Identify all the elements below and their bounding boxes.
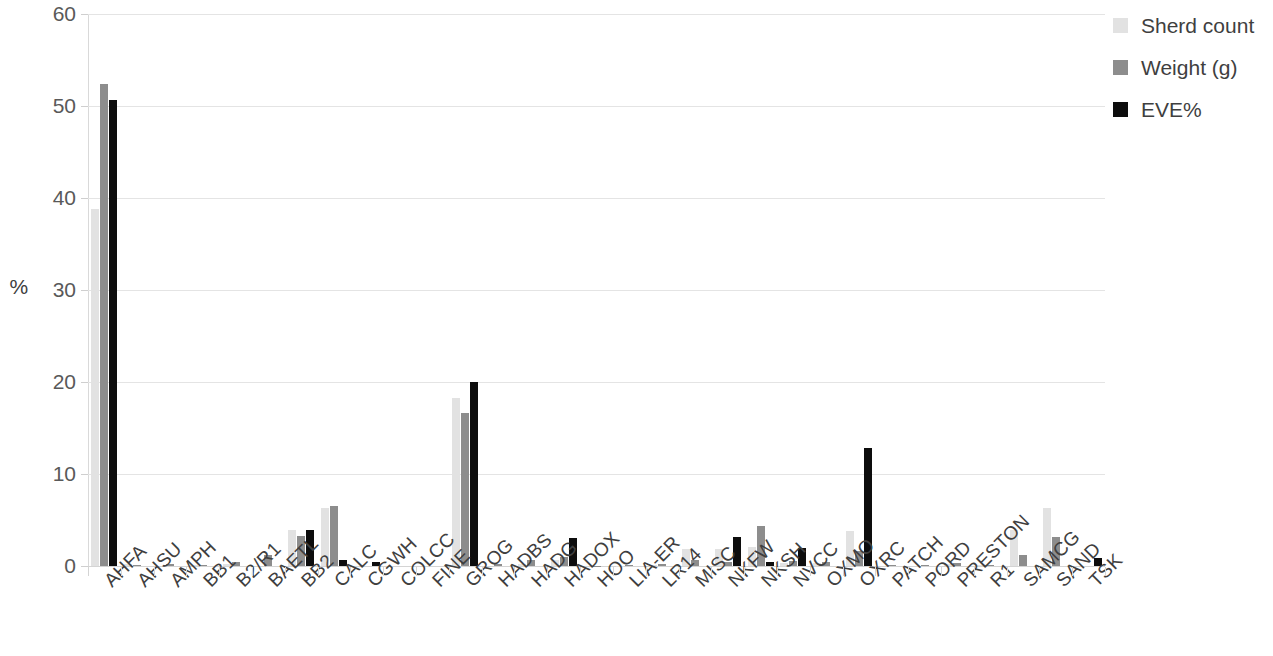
x-tick-mark: [843, 567, 844, 576]
x-tick-mark: [547, 567, 548, 576]
y-tick-mark: [81, 14, 88, 15]
x-tick-mark: [646, 567, 647, 576]
bar-chart: % AHFAAHSUAMPHBB1B2/R1BAETLBB2CALCCGWHCO…: [0, 0, 1273, 656]
legend-swatch-icon: [1113, 60, 1128, 75]
bar: [100, 84, 108, 566]
y-tick-label: 20: [32, 371, 76, 392]
x-tick-mark: [252, 567, 253, 576]
legend-item[interactable]: Sherd count: [1113, 4, 1273, 46]
x-tick-mark: [908, 567, 909, 576]
x-tick-mark: [186, 567, 187, 576]
gridline: [88, 290, 1105, 291]
chart-legend: Sherd countWeight (g)EVE%: [1113, 4, 1273, 130]
legend-item[interactable]: Weight (g): [1113, 46, 1273, 88]
x-tick-mark: [1105, 567, 1106, 576]
legend-label: Sherd count: [1141, 15, 1254, 36]
y-tick-mark: [81, 382, 88, 383]
x-tick-mark: [154, 567, 155, 576]
bar: [470, 382, 478, 566]
bar: [91, 209, 99, 566]
y-tick-mark: [81, 566, 88, 567]
x-tick-mark: [744, 567, 745, 576]
x-tick-mark: [777, 567, 778, 576]
x-tick-mark: [318, 567, 319, 576]
gridline: [88, 106, 1105, 107]
legend-swatch-icon: [1113, 18, 1128, 33]
x-tick-mark: [875, 567, 876, 576]
x-tick-mark: [679, 567, 680, 576]
y-tick-label: 0: [32, 555, 76, 576]
y-tick-label: 30: [32, 279, 76, 300]
x-tick-mark: [416, 567, 417, 576]
y-tick-label: 50: [32, 95, 76, 116]
gridline: [88, 14, 1105, 15]
gridline: [88, 474, 1105, 475]
x-tick-mark: [941, 567, 942, 576]
x-tick-mark: [514, 567, 515, 576]
x-tick-mark: [1039, 567, 1040, 576]
legend-label: EVE%: [1141, 99, 1202, 120]
x-tick-mark: [711, 567, 712, 576]
plot-area: [88, 14, 1105, 566]
gridline: [88, 382, 1105, 383]
x-tick-mark: [383, 567, 384, 576]
y-tick-mark: [81, 106, 88, 107]
y-tick-mark: [81, 198, 88, 199]
x-tick-mark: [580, 567, 581, 576]
bar: [461, 413, 469, 566]
x-tick-mark: [1072, 567, 1073, 576]
x-tick-mark: [1007, 567, 1008, 576]
x-tick-mark: [613, 567, 614, 576]
y-tick-mark: [81, 290, 88, 291]
bar: [109, 100, 117, 566]
x-tick-mark: [88, 567, 89, 576]
x-tick-mark: [350, 567, 351, 576]
x-tick-mark: [810, 567, 811, 576]
legend-item[interactable]: EVE%: [1113, 88, 1273, 130]
y-tick-label: 10: [32, 463, 76, 484]
legend-label: Weight (g): [1141, 57, 1237, 78]
bar: [330, 506, 338, 566]
y-tick-label: 60: [32, 3, 76, 24]
x-tick-mark: [219, 567, 220, 576]
x-tick-mark: [449, 567, 450, 576]
x-tick-mark: [285, 567, 286, 576]
bar: [1019, 555, 1027, 566]
gridline: [88, 198, 1105, 199]
legend-swatch-icon: [1113, 102, 1128, 117]
y-tick-mark: [81, 474, 88, 475]
y-axis-title: %: [2, 275, 36, 299]
x-tick-mark: [974, 567, 975, 576]
x-tick-mark: [482, 567, 483, 576]
y-tick-label: 40: [32, 187, 76, 208]
x-tick-mark: [121, 567, 122, 576]
